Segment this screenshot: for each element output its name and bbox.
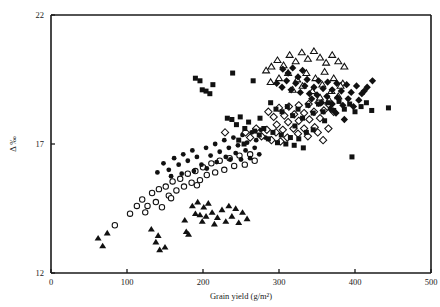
data-point-filled-circle xyxy=(161,161,166,166)
data-point-open-circle xyxy=(134,203,139,208)
data-point-filled-square xyxy=(270,130,275,135)
data-point-open-circle xyxy=(168,195,173,200)
data-point-open-circle xyxy=(163,184,168,189)
data-point-open-circle xyxy=(170,179,175,184)
data-point-filled-square xyxy=(252,129,257,134)
x-tick-label: 100 xyxy=(121,277,134,287)
y-tick-label: 12 xyxy=(36,268,45,278)
data-point-filled-circle xyxy=(226,145,231,150)
data-point-filled-square xyxy=(266,136,271,141)
data-point-filled-square xyxy=(225,116,230,121)
data-point-filled-circle xyxy=(208,153,213,158)
x-tick-label: 300 xyxy=(273,277,286,287)
x-tick-label: 400 xyxy=(349,277,362,287)
data-point-filled-square xyxy=(229,117,234,122)
data-point-open-circle xyxy=(231,163,236,168)
y-tick-label: 17 xyxy=(36,139,45,149)
data-point-filled-circle xyxy=(190,148,195,153)
data-point-filled-square xyxy=(300,116,305,121)
data-point-filled-circle xyxy=(222,138,227,143)
data-point-filled-square xyxy=(296,136,301,141)
data-point-filled-circle xyxy=(166,167,171,172)
data-point-open-circle xyxy=(204,172,209,177)
data-point-filled-square xyxy=(288,135,293,140)
data-point-open-circle xyxy=(143,210,148,215)
data-point-open-circle xyxy=(174,188,179,193)
data-point-filled-circle xyxy=(213,142,218,147)
data-point-filled-square xyxy=(210,82,215,87)
data-point-filled-circle xyxy=(223,155,228,160)
data-point-filled-circle xyxy=(155,170,160,175)
data-point-open-circle xyxy=(209,161,214,166)
data-point-filled-square xyxy=(349,154,354,159)
data-point-open-circle xyxy=(181,184,186,189)
data-point-filled-circle xyxy=(217,149,222,154)
data-point-open-circle xyxy=(197,177,202,182)
data-point-filled-circle xyxy=(254,138,259,143)
data-point-filled-circle xyxy=(248,156,253,161)
data-point-filled-square xyxy=(268,100,273,105)
data-point-filled-circle xyxy=(239,157,244,162)
data-point-filled-square xyxy=(258,116,263,121)
data-point-filled-circle xyxy=(243,148,248,153)
data-point-filled-square xyxy=(197,78,202,83)
x-tick-label: 0 xyxy=(49,277,53,287)
data-point-filled-square xyxy=(234,122,239,127)
data-point-filled-square xyxy=(207,91,212,96)
data-point-open-circle xyxy=(140,197,145,202)
data-point-filled-square xyxy=(292,123,297,128)
data-point-filled-square xyxy=(283,142,288,147)
y-axis-title: Δ ‰ xyxy=(8,136,18,152)
data-point-filled-circle xyxy=(252,145,257,150)
x-tick-label: 200 xyxy=(197,277,210,287)
data-point-filled-square xyxy=(193,76,198,81)
data-point-open-circle xyxy=(159,205,164,210)
data-point-open-circle xyxy=(189,180,194,185)
data-point-filled-circle xyxy=(204,166,209,171)
data-point-filled-square xyxy=(242,126,247,131)
data-point-filled-square xyxy=(364,100,369,105)
data-point-filled-square xyxy=(257,132,262,137)
data-point-filled-circle xyxy=(172,156,177,161)
data-point-open-circle xyxy=(212,170,217,175)
data-point-filled-circle xyxy=(233,151,238,156)
y-tick-label: 22 xyxy=(36,10,45,20)
x-tick-label: 500 xyxy=(425,277,438,287)
data-point-filled-square xyxy=(275,140,280,145)
data-point-filled-square xyxy=(292,143,297,148)
data-point-filled-square xyxy=(273,107,278,112)
data-point-open-circle xyxy=(127,211,132,216)
data-point-filled-circle xyxy=(257,152,262,157)
data-point-filled-square xyxy=(369,108,374,113)
data-point-filled-square xyxy=(305,103,310,108)
data-point-open-circle xyxy=(242,162,247,167)
data-point-filled-circle xyxy=(214,160,219,165)
data-point-filled-circle xyxy=(185,158,190,163)
data-point-filled-square xyxy=(251,78,256,83)
data-point-filled-square xyxy=(311,111,316,116)
scatter-chart-figure: 0100200300400500121722 Grain yield (g/m²… xyxy=(0,0,440,307)
data-point-filled-square xyxy=(301,145,306,150)
data-point-filled-square xyxy=(238,114,243,119)
data-point-open-circle xyxy=(252,158,257,163)
data-point-filled-square xyxy=(261,126,266,131)
data-point-open-circle xyxy=(149,190,154,195)
data-point-filled-circle xyxy=(195,155,200,160)
data-point-filled-square xyxy=(236,138,241,143)
data-point-filled-circle xyxy=(179,171,184,176)
data-point-open-circle xyxy=(145,203,150,208)
x-axis-title: Grain yield (g/m²) xyxy=(210,291,272,301)
data-point-filled-circle xyxy=(181,152,186,157)
data-point-filled-circle xyxy=(191,169,196,174)
data-point-filled-square xyxy=(353,109,358,114)
data-point-open-circle xyxy=(153,199,158,204)
data-point-filled-square xyxy=(386,105,391,110)
data-point-filled-circle xyxy=(199,162,204,167)
data-point-open-circle xyxy=(185,171,190,176)
data-point-open-circle xyxy=(178,176,183,181)
data-point-filled-square xyxy=(242,142,247,147)
data-point-filled-square xyxy=(246,120,251,125)
data-point-filled-square xyxy=(285,104,290,109)
data-point-filled-circle xyxy=(236,143,241,148)
data-point-filled-square xyxy=(296,107,301,112)
